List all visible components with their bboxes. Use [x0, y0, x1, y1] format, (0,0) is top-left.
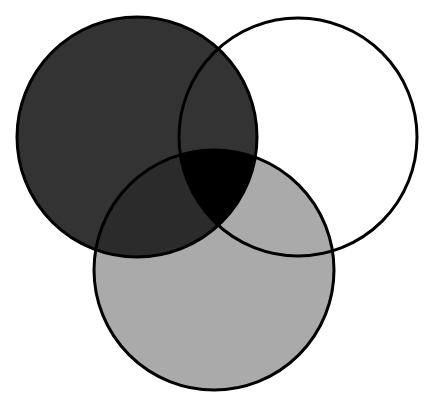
venn-diagram — [0, 0, 426, 402]
